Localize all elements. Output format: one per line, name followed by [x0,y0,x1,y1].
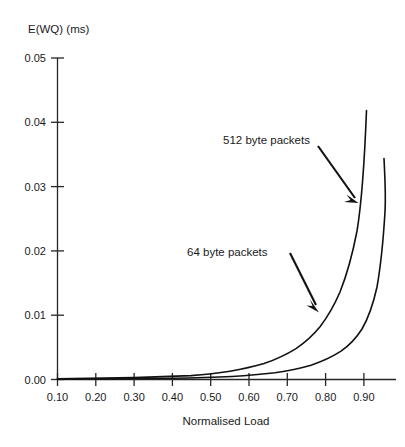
y-tick-label-0.00: 0.00 [25,374,46,386]
y-axis-title: E(WQ) (ms) [28,23,89,35]
annotation-leader-512-byte-packets [318,146,355,198]
annotation-leader-64-byte-packets [290,253,316,305]
chart-figure: 0.05 0.04 0.03 0.02 0.01 0.00 0.10 0.20 … [0,0,405,447]
y-tick-label-0.01: 0.01 [25,309,46,321]
curve-512-byte-packets [58,159,386,380]
x-tick-label-0.40: 0.40 [162,391,183,403]
annotation-label-64-byte-packets: 64 byte packets [187,246,268,258]
chart-plot-area: 0.05 0.04 0.03 0.02 0.01 0.00 0.10 0.20 … [0,0,405,447]
x-tick-label-0.90: 0.90 [353,391,374,403]
x-tick-label-0.70: 0.70 [277,391,298,403]
x-axis-title: Normalised Load [183,415,270,427]
x-tick-label-0.80: 0.80 [315,391,336,403]
x-tick-label-0.60: 0.60 [238,391,259,403]
y-tick-label-0.03: 0.03 [25,181,46,193]
x-tick-label-0.30: 0.30 [123,391,144,403]
x-tick-label-0.20: 0.20 [85,391,106,403]
y-tick-label-0.02: 0.02 [25,245,46,257]
annotation-arrowhead-64-byte-packets [307,300,320,313]
y-tick-label-0.04: 0.04 [25,116,46,128]
x-tick-label-0.10: 0.10 [47,391,68,403]
y-tick-label-0.05: 0.05 [25,52,46,64]
x-tick-label-0.50: 0.50 [200,391,221,403]
annotation-arrowhead-512-byte-packets [344,195,359,204]
annotation-label-512-byte-packets: 512 byte packets [223,134,310,146]
